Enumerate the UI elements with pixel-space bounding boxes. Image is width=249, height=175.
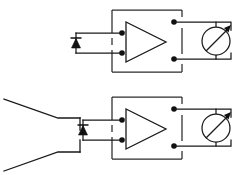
upper-meter bbox=[202, 25, 231, 55]
upper-diode-triangle bbox=[72, 39, 81, 49]
lower-meter bbox=[202, 112, 231, 142]
horn-lower-flare bbox=[4, 152, 80, 171]
upper-amplifier-triangle bbox=[126, 22, 166, 62]
circuit-diagram-canvas bbox=[0, 0, 249, 175]
horn-upper-flare bbox=[4, 99, 80, 118]
lower-circuit bbox=[4, 97, 231, 171]
lower-amplifier-triangle bbox=[126, 109, 166, 149]
upper-amplifier-enclosure bbox=[112, 10, 182, 72]
lower-horn-antenna bbox=[4, 99, 80, 171]
lower-amplifier-enclosure bbox=[112, 97, 182, 159]
circuit-diagram-svg bbox=[0, 0, 249, 175]
upper-circuit bbox=[71, 10, 232, 72]
